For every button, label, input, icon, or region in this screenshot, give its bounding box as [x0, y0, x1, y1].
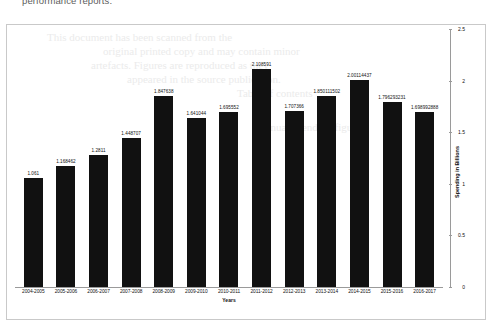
- bar-slot: 1.850111502: [310, 29, 343, 287]
- y-axis-tick-mark: [449, 235, 452, 236]
- bar-value-label: 1.448707: [121, 131, 141, 137]
- bar-slot: 1.796293231: [376, 29, 409, 287]
- x-axis-tick-label: 2005-2006: [50, 289, 83, 294]
- x-axis-tick-labels: 2004-20052005-20062006-20072007-20082008…: [15, 289, 443, 294]
- bar[interactable]: [383, 102, 402, 287]
- y-axis-tick-mark: [449, 132, 452, 133]
- bar-series: 1.0611.1684621.28111.4487071.8476381.641…: [15, 29, 443, 287]
- y-axis-tick-label: 2.5: [458, 26, 465, 32]
- bar-value-label: 1.796293231: [378, 95, 405, 101]
- x-axis-tick-label: 2014-2015: [343, 289, 376, 294]
- bar-slot: 1.847638: [147, 29, 180, 287]
- y-axis-tick-label: 1.5: [458, 129, 465, 135]
- bar-value-label: 1.847638: [154, 89, 174, 95]
- x-axis-title: Years: [15, 297, 443, 303]
- y-axis-tick-label: 2: [462, 78, 465, 84]
- x-axis-tick-label: 2009-2010: [180, 289, 213, 294]
- y-axis-tick-mark: [449, 81, 452, 82]
- bar-slot: 1.2811: [82, 29, 115, 287]
- y-axis-title: Spending in Billions: [454, 146, 460, 198]
- x-axis-tick-label: 2016-2017: [408, 289, 441, 294]
- bar-value-label: 1.850111502: [313, 89, 340, 95]
- bar[interactable]: [252, 69, 271, 287]
- bar[interactable]: [122, 138, 141, 288]
- bar-value-label: 2.00114437: [347, 73, 371, 79]
- bar[interactable]: [415, 112, 434, 287]
- y-axis-tick-mark: [449, 29, 452, 30]
- bar-value-label: 1.2811: [92, 148, 106, 154]
- y-axis-tick-label: 1: [462, 181, 465, 187]
- x-axis-tick-label: 2015-2016: [376, 289, 409, 294]
- page-heading-fragment: performance reports.: [22, 0, 112, 6]
- bar-value-label: 1.698992888: [411, 105, 438, 111]
- bar[interactable]: [187, 118, 206, 287]
- bar[interactable]: [154, 96, 173, 287]
- x-axis-tick-label: 2007-2008: [115, 289, 148, 294]
- bar-value-label: 1.707366: [284, 104, 304, 110]
- bar-slot: 1.641044: [180, 29, 213, 287]
- bar-slot: 1.698992888: [408, 29, 441, 287]
- x-axis-tick-label: 2012-2013: [278, 289, 311, 294]
- x-axis-tick-label: 2006-2007: [82, 289, 115, 294]
- x-axis-tick-label: 2008-2009: [147, 289, 180, 294]
- bar-slot: 2.108591: [245, 29, 278, 287]
- y-axis-tick-label: 0.5: [458, 232, 465, 238]
- y-axis-tick-mark: [449, 184, 452, 185]
- chart-figure-frame: This document has been scanned from the …: [6, 24, 486, 320]
- bar-value-label: 1.641044: [187, 111, 207, 117]
- bar[interactable]: [317, 96, 336, 287]
- bar[interactable]: [24, 178, 43, 287]
- bar-value-label: 2.108591: [252, 62, 272, 68]
- bar-value-label: 1.168462: [56, 159, 76, 165]
- x-axis-tick-label: 2004-2005: [17, 289, 50, 294]
- bar-slot: 1.707366: [278, 29, 311, 287]
- bar-value-label: 1.695552: [219, 105, 239, 111]
- bar[interactable]: [219, 112, 238, 287]
- bar[interactable]: [56, 166, 75, 287]
- y-axis-tick-label: 0: [462, 284, 465, 290]
- x-axis-tick-label: 2013-2014: [310, 289, 343, 294]
- bar[interactable]: [350, 80, 369, 287]
- y-axis-tick-mark: [449, 287, 452, 288]
- x-axis-line: [15, 287, 443, 288]
- bar-value-label: 1.061: [27, 171, 39, 177]
- bar[interactable]: [89, 155, 108, 287]
- bar-slot: 1.448707: [115, 29, 148, 287]
- plot-area: 1.0611.1684621.28111.4487071.8476381.641…: [15, 29, 443, 287]
- bar-slot: 2.00114437: [343, 29, 376, 287]
- bar-slot: 1.695552: [213, 29, 246, 287]
- bar-slot: 1.061: [17, 29, 50, 287]
- bar-slot: 1.168462: [50, 29, 83, 287]
- bar[interactable]: [285, 111, 304, 287]
- x-axis-tick-label: 2010-2011: [213, 289, 246, 294]
- x-axis-tick-label: 2011-2012: [245, 289, 278, 294]
